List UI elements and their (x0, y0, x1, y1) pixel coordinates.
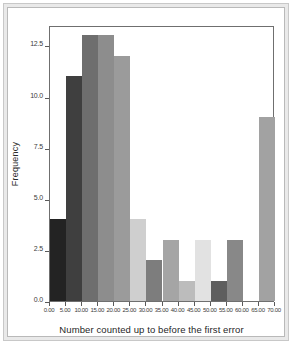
x-tick-label: 20.00 (107, 307, 121, 313)
x-tick-mark (242, 302, 243, 306)
x-tick-label: 25.00 (123, 307, 137, 313)
x-tick-label: 0.00 (44, 307, 54, 313)
x-tick-mark (81, 302, 82, 306)
x-tick-mark (210, 302, 211, 306)
x-tick-mark (226, 302, 227, 306)
y-axis-tick: 10.0 (4, 98, 49, 99)
x-tick-label: 45.00 (187, 307, 201, 313)
x-tick-mark (65, 302, 66, 306)
x-tick-label: 55.00 (219, 307, 233, 313)
y-axis-tick: 7.5 (4, 149, 49, 150)
y-tick-label: 12.5 (30, 40, 43, 47)
histogram-bar (82, 35, 98, 301)
x-tick-mark (178, 302, 179, 306)
x-tick-mark (145, 302, 146, 306)
bars-container (50, 27, 273, 301)
x-tick-mark (162, 302, 163, 306)
x-tick-mark (129, 302, 130, 306)
x-tick-label: 5.00 (60, 307, 70, 313)
x-tick-mark (274, 302, 275, 306)
x-tick-label: 40.00 (171, 307, 185, 313)
x-tick-mark (49, 302, 50, 306)
x-tick-label: 30.00 (139, 307, 153, 313)
histogram-bar (66, 76, 82, 301)
x-tick-label: 35.00 (155, 307, 169, 313)
x-tick-label: 10.00 (74, 307, 88, 313)
histogram-bar (50, 219, 66, 301)
x-tick-mark (194, 302, 195, 306)
y-tick-label: 10.0 (30, 92, 43, 99)
histogram-bar (163, 240, 179, 301)
histogram-bar (179, 281, 195, 301)
x-tick-mark (113, 302, 114, 306)
y-axis-tick: 2.5 (4, 251, 49, 252)
y-tick-label: 2.5 (34, 245, 43, 252)
histogram-bar (130, 219, 146, 301)
y-axis: 0.02.55.07.510.012.5 (4, 26, 49, 302)
x-axis-title: Number counted up to before the first er… (24, 324, 279, 335)
x-tick-mark (97, 302, 98, 306)
histogram-bar (146, 260, 162, 301)
y-tick-label: 0.0 (34, 296, 43, 303)
x-axis: 0.005.0010.0015.0020.0025.0030.0035.0040… (49, 302, 274, 316)
histogram-bar (227, 240, 243, 301)
plot-panel (49, 26, 274, 302)
histogram-bar (195, 240, 211, 301)
y-axis-tick: 5.0 (4, 200, 49, 201)
y-tick-label: 7.5 (34, 143, 43, 150)
x-tick-label: 65.00 (251, 307, 265, 313)
x-tick-mark (258, 302, 259, 306)
histogram-bar (114, 56, 130, 301)
x-tick-label: 15.00 (90, 307, 104, 313)
x-tick-label: 60.00 (235, 307, 249, 313)
histogram-bar (98, 35, 114, 301)
x-tick-label: 50.00 (203, 307, 217, 313)
histogram-bar (211, 281, 227, 301)
y-tick-label: 5.0 (34, 194, 43, 201)
x-tick-label: 70.00 (267, 307, 281, 313)
histogram-bar (259, 117, 275, 301)
figure-frame: Frequency 0.02.55.07.510.012.5 0.005.001… (3, 3, 289, 341)
y-axis-tick: 0.0 (4, 302, 49, 303)
y-axis-tick: 12.5 (4, 46, 49, 47)
